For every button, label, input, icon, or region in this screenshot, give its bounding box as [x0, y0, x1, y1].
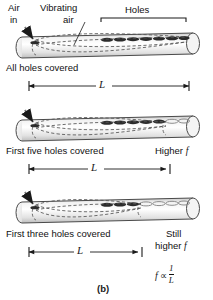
- flute-length-frequency-figure: Air in Vibrating air Holes All holes cov…: [0, 0, 213, 300]
- panel-3-pitch-label-line2: higher f: [155, 241, 187, 252]
- formula-numerator: 1: [169, 264, 174, 273]
- figure-caption: (b): [97, 284, 109, 294]
- air-in-label-line1: Air: [8, 3, 20, 13]
- formula-denominator: L: [169, 276, 174, 285]
- tube-panel-1: [16, 18, 199, 92]
- panel-2-pitch-label: Higher f: [155, 146, 188, 157]
- panel-1-caption: All holes covered: [6, 63, 78, 73]
- frequency-formula: f∝1L: [155, 264, 174, 286]
- holes-label: Holes: [125, 5, 149, 15]
- panel-3-caption: First three holes covered: [6, 229, 111, 239]
- panel-3-length-label: L: [77, 245, 83, 256]
- formula-fraction: 1L: [169, 264, 174, 286]
- vibrating-air-label-line1: Vibrating: [40, 3, 77, 13]
- tube-panel-2: [16, 110, 200, 175]
- panel-1-length-label: L: [99, 79, 105, 90]
- panel-3-pitch-symbol: f: [184, 241, 187, 251]
- panel-3-pitch-label-line1: Still: [166, 229, 181, 239]
- panel-2-pitch-text: Higher: [155, 145, 183, 156]
- vibrating-air-label-line2: air: [63, 15, 74, 25]
- formula-proportional-icon: ∝: [158, 270, 169, 281]
- air-in-label-line2: in: [10, 15, 17, 25]
- panel-2-pitch-symbol: f: [186, 146, 189, 156]
- panel-2-caption: First five holes covered: [6, 146, 104, 156]
- panel-2-length-label: L: [91, 162, 97, 173]
- panel-3-pitch-text: higher: [155, 240, 181, 251]
